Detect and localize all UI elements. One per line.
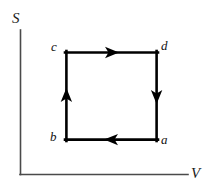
state-label-c: c bbox=[51, 40, 57, 53]
arrowheads-group bbox=[61, 47, 163, 146]
volume-axis-label: V bbox=[191, 166, 200, 181]
state-label-d: d bbox=[161, 39, 168, 52]
state-label-b: b bbox=[50, 130, 57, 143]
state-label-a: a bbox=[161, 133, 168, 146]
entropy-axis-label: S bbox=[12, 11, 20, 26]
cycle-path-group bbox=[65, 51, 158, 141]
cycle-diagram-figure: S V c d b a bbox=[0, 0, 210, 191]
diagram-canvas bbox=[0, 0, 210, 191]
